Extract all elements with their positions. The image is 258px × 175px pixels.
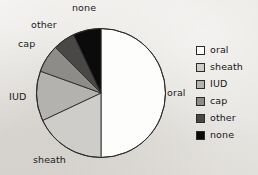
- legend-swatch-other: [196, 114, 205, 123]
- legend-swatch-sheath: [196, 63, 205, 72]
- legend-item-iud: IUD: [196, 76, 256, 92]
- pie-callout-sheath: sheath: [33, 155, 66, 165]
- legend-label-cap: cap: [210, 96, 227, 106]
- legend-label-oral: oral: [210, 45, 229, 55]
- legend-swatch-oral: [196, 46, 205, 55]
- legend-item-sheath: sheath: [196, 59, 256, 75]
- legend-label-other: other: [210, 113, 236, 123]
- legend-item-other: other: [196, 110, 256, 126]
- pie-slice-group: [36, 29, 165, 158]
- pie-callout-none: none: [72, 3, 96, 13]
- legend-swatch-cap: [196, 97, 205, 106]
- legend-item-cap: cap: [196, 93, 256, 109]
- legend-label-sheath: sheath: [210, 62, 243, 72]
- legend-label-iud: IUD: [210, 79, 227, 89]
- legend-swatch-iud: [196, 80, 205, 89]
- legend-item-oral: oral: [196, 42, 256, 58]
- pie-callout-other: other: [31, 20, 57, 30]
- pie-callout-iud: IUD: [9, 92, 26, 102]
- pie-slice-oral: [101, 29, 166, 158]
- pie-callout-cap: cap: [18, 39, 35, 49]
- legend-item-none: none: [196, 127, 256, 143]
- legend-swatch-none: [196, 131, 205, 140]
- chart-legend: oralsheathIUDcapothernone: [196, 42, 256, 144]
- legend-label-none: none: [210, 130, 234, 140]
- pie-callout-oral: oral: [167, 88, 186, 98]
- page-background: none other cap IUD sheath oral oralsheat…: [0, 0, 258, 175]
